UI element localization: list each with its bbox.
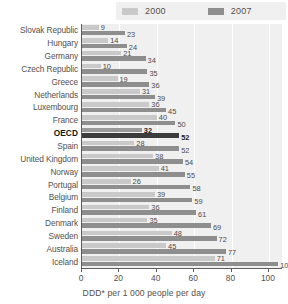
category-label: Iceland bbox=[0, 255, 78, 268]
bar-row: 4155 bbox=[82, 165, 282, 178]
bar-2000 bbox=[82, 76, 118, 81]
bar-2000 bbox=[82, 25, 99, 30]
x-axis-tick bbox=[193, 268, 194, 272]
chart-legend: 20002007 bbox=[116, 2, 286, 20]
legend-swatch-icon bbox=[122, 8, 138, 15]
bar-2000 bbox=[82, 166, 159, 171]
bar-2007 bbox=[82, 198, 192, 203]
category-axis-labels: Slovak RepublicHungaryGermanyCzech Repub… bbox=[0, 24, 78, 268]
bar-2007 bbox=[82, 56, 146, 61]
bar-2007 bbox=[82, 44, 127, 49]
bar-row: 3661 bbox=[82, 204, 282, 217]
category-label: Czech Republic bbox=[0, 63, 78, 76]
bar-2000 bbox=[82, 141, 134, 146]
bar-2007 bbox=[82, 95, 155, 100]
category-label: Greece bbox=[0, 75, 78, 88]
bar-2007 bbox=[82, 210, 196, 215]
bar-2007 bbox=[82, 82, 149, 87]
bar-row: 1936 bbox=[82, 75, 282, 88]
bar-row: 3854 bbox=[82, 152, 282, 165]
bar-2007 bbox=[82, 159, 183, 164]
category-label: Portugal bbox=[0, 178, 78, 191]
x-axis-tick-label: 40 bbox=[151, 273, 160, 283]
bar-2007 bbox=[82, 172, 185, 177]
bar-row: 3645 bbox=[82, 101, 282, 114]
bar-2000 bbox=[82, 179, 131, 184]
category-label: OECD bbox=[0, 127, 78, 140]
bar-2007 bbox=[82, 249, 226, 254]
bar-row: 2658 bbox=[82, 178, 282, 191]
x-axis-tick-label: 0 bbox=[79, 273, 84, 283]
bar-row: 923 bbox=[82, 24, 282, 37]
legend-swatch-icon bbox=[208, 8, 224, 15]
bar-2007 bbox=[82, 223, 211, 228]
bar-2007 bbox=[82, 146, 179, 151]
bar-2000 bbox=[82, 243, 166, 248]
x-axis-tick bbox=[268, 268, 269, 272]
legend-label: 2000 bbox=[145, 6, 166, 16]
bar-2000 bbox=[82, 154, 153, 159]
category-label: Norway bbox=[0, 165, 78, 178]
x-axis-tick-label: 100 bbox=[261, 273, 275, 283]
x-axis-tick-label: 80 bbox=[226, 273, 235, 283]
bar-2007 bbox=[82, 121, 175, 126]
category-label: United Kingdom bbox=[0, 152, 78, 165]
bar-2000 bbox=[82, 51, 121, 56]
category-label: Slovak Republic bbox=[0, 24, 78, 37]
category-label: Luxembourg bbox=[0, 101, 78, 114]
bar-2000 bbox=[82, 218, 147, 223]
bar-2007 bbox=[82, 133, 179, 138]
bar-2000 bbox=[82, 64, 101, 69]
bar-row: 4577 bbox=[82, 242, 282, 255]
bar-2000 bbox=[82, 128, 142, 133]
bar-2000 bbox=[82, 192, 155, 197]
bar-row: 3959 bbox=[82, 191, 282, 204]
bar-2000 bbox=[82, 205, 149, 210]
bar-row: 4872 bbox=[82, 229, 282, 242]
bar-2000 bbox=[82, 89, 140, 94]
bar-2000 bbox=[82, 115, 157, 120]
x-axis-caption: DDD* per 1 000 people per day bbox=[0, 288, 288, 298]
bar-row: 3139 bbox=[82, 88, 282, 101]
legend-label: 2007 bbox=[231, 6, 252, 16]
bar-2000 bbox=[82, 256, 215, 261]
x-axis-line bbox=[81, 268, 282, 269]
x-axis-tick bbox=[118, 268, 119, 272]
x-axis-tick bbox=[81, 268, 82, 272]
plot-area: 9231424213410351936313936454050325228523… bbox=[81, 24, 282, 268]
category-label: Netherlands bbox=[0, 88, 78, 101]
bar-2007 bbox=[82, 108, 166, 113]
bar-row: 2852 bbox=[82, 140, 282, 153]
bar-row: 71105 bbox=[82, 255, 282, 268]
bar-2000 bbox=[82, 102, 149, 107]
bar-chart: 20002007 Slovak RepublicHungaryGermanyCz… bbox=[0, 0, 288, 304]
bar-2000 bbox=[82, 38, 108, 43]
category-label: Sweden bbox=[0, 229, 78, 242]
category-label: Hungary bbox=[0, 37, 78, 50]
bar-2007 bbox=[82, 236, 217, 241]
bar-2007 bbox=[82, 185, 190, 190]
bar-row: 1424 bbox=[82, 37, 282, 50]
category-label: Australia bbox=[0, 242, 78, 255]
bar-2007 bbox=[82, 69, 147, 74]
bar-row: 1035 bbox=[82, 63, 282, 76]
x-axis-tick-label: 60 bbox=[188, 273, 197, 283]
bar-row: 4050 bbox=[82, 114, 282, 127]
category-label: Germany bbox=[0, 50, 78, 63]
category-label: Denmark bbox=[0, 217, 78, 230]
legend-entry-2000: 2000 bbox=[122, 6, 166, 16]
bar-row: 3569 bbox=[82, 217, 282, 230]
category-label: Spain bbox=[0, 140, 78, 153]
category-label: France bbox=[0, 114, 78, 127]
bar-row: 2134 bbox=[82, 50, 282, 63]
category-label: Belgium bbox=[0, 191, 78, 204]
x-axis-tick bbox=[156, 268, 157, 272]
x-axis-tick bbox=[231, 268, 232, 272]
bar-row: 3252 bbox=[82, 127, 282, 140]
legend-entry-2007: 2007 bbox=[208, 6, 252, 16]
category-label: Finland bbox=[0, 204, 78, 217]
bar-2007 bbox=[82, 262, 278, 267]
x-axis-tick-label: 20 bbox=[114, 273, 123, 283]
bar-2007 bbox=[82, 31, 125, 36]
bar-2000 bbox=[82, 231, 172, 236]
